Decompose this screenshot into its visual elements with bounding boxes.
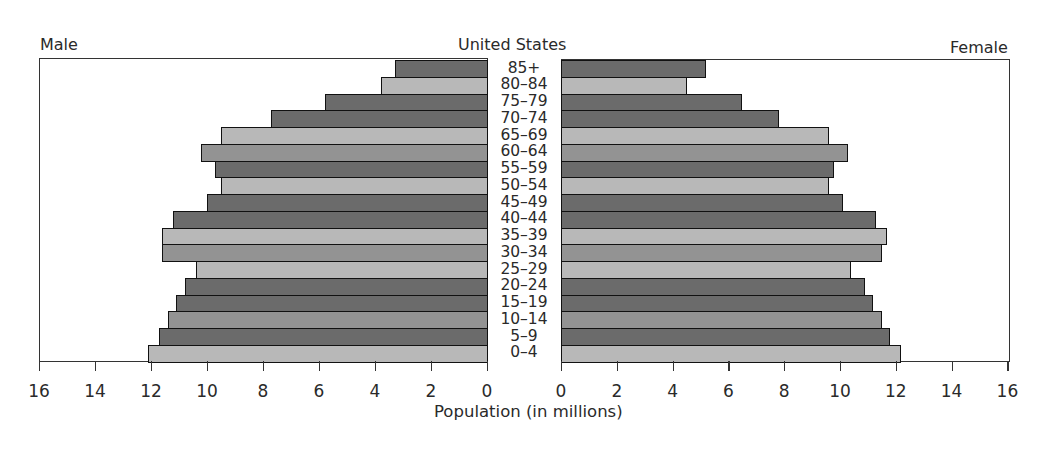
- age-group-label: 75–79: [487, 93, 561, 110]
- male-bar: [207, 194, 488, 212]
- female-bar: [561, 295, 873, 313]
- female-bar: [561, 77, 687, 95]
- female-axis-tick-label: 10: [820, 381, 860, 401]
- x-axis-label: Population (in millions): [434, 402, 623, 421]
- male-axis-tick-label: 12: [131, 381, 171, 401]
- female-axis-tick-label: 4: [653, 381, 693, 401]
- age-group-label: 35–39: [487, 227, 561, 244]
- female-bar: [561, 244, 882, 262]
- female-axis-tick-label: 16: [987, 381, 1027, 401]
- female-axis-tick: [840, 361, 841, 371]
- age-group-label: 20–24: [487, 277, 561, 294]
- male-bar: [185, 278, 488, 296]
- male-bar: [148, 345, 488, 363]
- female-axis-tick-label: 14: [932, 381, 972, 401]
- male-axis-tick-label: 10: [187, 381, 227, 401]
- female-axis-tick-label: 8: [764, 381, 804, 401]
- age-group-label: 30–34: [487, 244, 561, 261]
- female-axis-tick-label: 2: [597, 381, 637, 401]
- female-axis-tick: [784, 361, 785, 371]
- female-bar: [561, 345, 901, 363]
- female-axis-tick: [1007, 361, 1008, 371]
- age-group-label: 5–9: [487, 328, 561, 345]
- female-bar: [561, 261, 851, 279]
- male-axis-tick: [431, 361, 432, 371]
- male-bar: [159, 328, 488, 346]
- male-bar: [381, 77, 488, 95]
- age-group-label: 45–49: [487, 194, 561, 211]
- female-axis-tick-label: 0: [541, 381, 581, 401]
- female-bar: [561, 94, 742, 112]
- male-bar: [162, 228, 488, 246]
- male-axis-tick: [263, 361, 264, 371]
- male-axis-tick: [487, 361, 488, 371]
- chart-title: United States: [458, 35, 566, 54]
- female-axis-tick-label: 12: [876, 381, 916, 401]
- male-axis-tick-label: 2: [411, 381, 451, 401]
- female-axis-tick: [952, 361, 953, 371]
- age-group-label: 80–84: [487, 76, 561, 93]
- female-label: Female: [950, 38, 1008, 57]
- age-group-label: 40–44: [487, 210, 561, 227]
- male-bar: [173, 211, 488, 229]
- female-bar: [561, 228, 887, 246]
- male-bar: [325, 94, 488, 112]
- female-bar: [561, 177, 829, 195]
- male-label: Male: [40, 35, 78, 54]
- age-group-label: 15–19: [487, 294, 561, 311]
- female-axis-tick: [896, 361, 897, 371]
- age-group-label: 85+: [487, 60, 561, 77]
- female-axis-tick: [673, 361, 674, 371]
- male-axis-tick: [375, 361, 376, 371]
- male-axis-tick-label: 16: [19, 381, 59, 401]
- male-axis-tick: [95, 361, 96, 371]
- female-axis-tick: [561, 361, 562, 371]
- male-bar: [196, 261, 488, 279]
- female-bar: [561, 110, 779, 128]
- female-bar: [561, 161, 834, 179]
- female-axis-tick: [617, 361, 618, 371]
- female-bar: [561, 211, 876, 229]
- age-group-label: 50–54: [487, 177, 561, 194]
- male-bar: [176, 295, 488, 313]
- male-axis-tick-label: 8: [243, 381, 283, 401]
- female-bar: [561, 328, 890, 346]
- female-bar: [561, 194, 843, 212]
- age-group-label: 25–29: [487, 261, 561, 278]
- male-bar: [271, 110, 488, 128]
- male-axis-tick-label: 14: [75, 381, 115, 401]
- male-bar: [162, 244, 488, 262]
- male-axis-tick-label: 4: [355, 381, 395, 401]
- age-group-label: 0–4: [487, 344, 561, 361]
- age-group-label: 55–59: [487, 160, 561, 177]
- female-bar: [561, 278, 865, 296]
- female-bar: [561, 127, 829, 145]
- female-bar: [561, 144, 848, 162]
- age-group-label: 60–64: [487, 143, 561, 160]
- male-axis-tick-label: 6: [299, 381, 339, 401]
- female-bar: [561, 311, 882, 329]
- age-group-label: 65–69: [487, 127, 561, 144]
- male-axis-tick: [319, 361, 320, 371]
- male-bar: [168, 311, 488, 329]
- female-bar: [561, 60, 706, 78]
- male-bar: [201, 144, 488, 162]
- male-axis-tick: [151, 361, 152, 371]
- age-group-label: 10–14: [487, 311, 561, 328]
- female-axis-tick: [728, 361, 729, 371]
- female-axis-tick-label: 6: [708, 381, 748, 401]
- male-axis-tick: [39, 361, 40, 371]
- male-bar: [221, 127, 488, 145]
- male-bar: [215, 161, 488, 179]
- male-axis-tick: [207, 361, 208, 371]
- male-bar: [395, 60, 488, 78]
- age-group-label: 70–74: [487, 110, 561, 127]
- male-bar: [221, 177, 488, 195]
- male-axis-tick-label: 0: [467, 381, 507, 401]
